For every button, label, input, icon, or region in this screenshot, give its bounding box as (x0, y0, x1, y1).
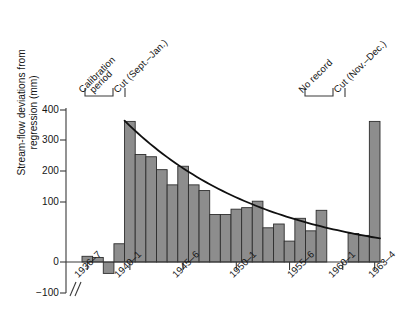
bar (210, 215, 221, 263)
bar (146, 157, 157, 262)
bar (135, 154, 146, 262)
bar (274, 224, 285, 262)
bar (231, 209, 242, 262)
bar (263, 228, 274, 262)
bar (369, 121, 380, 262)
y-ticks (60, 110, 66, 293)
bar (199, 191, 210, 262)
bar (157, 170, 168, 262)
bar (316, 210, 327, 262)
bars-group (82, 121, 380, 273)
bar (167, 185, 178, 262)
axis-break-mark (70, 282, 81, 296)
bar (284, 241, 295, 262)
bar (125, 121, 136, 262)
bar (220, 215, 231, 263)
bar (178, 166, 189, 262)
bar (359, 235, 370, 262)
